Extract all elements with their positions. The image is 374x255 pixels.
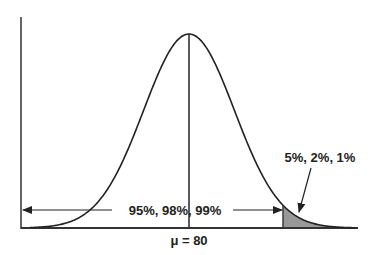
normal-curve	[30, 34, 356, 228]
mean-label: μ = 80	[170, 233, 207, 248]
normal-distribution-diagram: 95%, 98%, 99% 5%, 2%, 1% μ = 80	[0, 0, 374, 255]
confidence-levels-label: 95%, 98%, 99%	[129, 203, 222, 218]
significance-levels-label: 5%, 2%, 1%	[285, 150, 356, 165]
tail-pointer-arrow	[299, 168, 311, 212]
